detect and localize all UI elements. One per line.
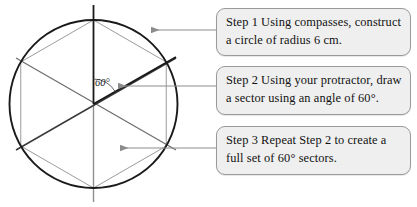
figure-canvas: 60° Step 1 Using compasses, construct a …: [0, 0, 417, 207]
callout-step-3-line-1: Step 3 Repeat Step 2 to create a: [226, 132, 403, 150]
callout-step-2: Step 2 Using your protractor, draw a sec…: [216, 66, 411, 115]
angle-label-60: 60°: [95, 77, 110, 88]
hexagon-edge-bottom-left: [21, 146, 94, 188]
callout-step-3-line-2: full set of 60° sectors.: [226, 150, 403, 168]
callout-step-1: Step 1 Using compasses, construct a circ…: [216, 8, 411, 56]
sector-radii: [94, 5, 177, 104]
callout-step-1-line-2: a circle of radius 6 cm.: [226, 32, 403, 50]
callout-step-3: Step 3 Repeat Step 2 to create a full se…: [216, 126, 411, 175]
callout-step-1-line-1: Step 1 Using compasses, construct: [226, 14, 403, 32]
callout-step-2-line-2: a sector using an angle of 60°.: [226, 90, 403, 108]
hexagon-edge-top-left: [21, 20, 94, 62]
hexagon-edge-top-right: [94, 20, 167, 62]
callout-step-2-line-1: Step 2 Using your protractor, draw: [226, 72, 403, 90]
hexagon-edge-bottom-right: [94, 146, 167, 188]
callout-pointers: [118, 30, 216, 148]
